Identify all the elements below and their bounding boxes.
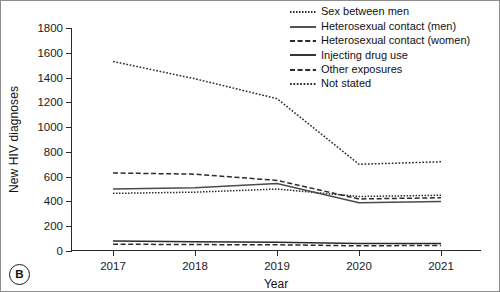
- legend-line-icon: [290, 7, 316, 17]
- legend-item[interactable]: Other exposures: [290, 63, 470, 77]
- x-axis-tick-label: 2021: [428, 260, 454, 272]
- legend-line-icon: [290, 50, 316, 60]
- x-axis-title: Year: [71, 277, 481, 291]
- legend-item[interactable]: Heterosexual contact (men): [290, 19, 470, 33]
- series-line: [113, 244, 441, 246]
- legend-item-label: Sex between men: [321, 4, 409, 20]
- x-axis-tick-label: 2017: [100, 260, 126, 272]
- x-axis-tick-label: 2020: [346, 260, 372, 272]
- y-axis-tick-label: 1800: [37, 22, 63, 34]
- panel-label: B: [9, 264, 30, 285]
- y-axis-title: New HIV diagnoses: [7, 28, 23, 251]
- legend-line-icon: [290, 65, 316, 75]
- y-axis-tick-label: 800: [44, 146, 63, 158]
- y-axis-tick: [66, 251, 72, 252]
- y-axis-tick-label: 400: [44, 195, 63, 207]
- legend-item-label: Heterosexual contact (women): [321, 33, 470, 49]
- y-axis-tick-label: 200: [44, 220, 63, 232]
- legend-item-label: Injecting drug use: [321, 48, 408, 64]
- legend-item[interactable]: Sex between men: [290, 5, 470, 19]
- series-line: [113, 189, 441, 196]
- figure-panel-b: New HIV diagnoses 0200400600800100012001…: [0, 0, 500, 292]
- legend-item[interactable]: Injecting drug use: [290, 48, 470, 62]
- legend-item-label: Other exposures: [321, 62, 402, 78]
- x-axis-tick-label: 2019: [264, 260, 290, 272]
- legend-line-icon: [290, 36, 316, 46]
- x-axis-tick-label: 2018: [182, 260, 208, 272]
- legend-line-icon: [290, 22, 316, 32]
- y-axis-tick-label: 1200: [37, 96, 63, 108]
- y-axis-tick-label: 600: [44, 171, 63, 183]
- legend-item-label: Heterosexual contact (men): [321, 19, 456, 35]
- legend-item[interactable]: Not stated: [290, 77, 470, 91]
- y-axis-tick-label: 1600: [37, 47, 63, 59]
- legend-item[interactable]: Heterosexual contact (women): [290, 34, 470, 48]
- series-line: [113, 241, 441, 243]
- y-axis-tick-label: 1000: [37, 121, 63, 133]
- y-axis-tick-label: 0: [57, 245, 63, 257]
- series-line: [113, 173, 441, 199]
- legend-item-label: Not stated: [321, 76, 371, 92]
- y-axis-tick-label: 1400: [37, 72, 63, 84]
- legend-line-icon: [290, 79, 316, 89]
- chart-legend: Sex between menHeterosexual contact (men…: [290, 5, 470, 91]
